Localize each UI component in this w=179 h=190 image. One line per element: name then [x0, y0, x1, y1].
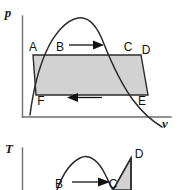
t-point-label-d: D	[135, 147, 144, 161]
t-point-label-c: C	[109, 177, 118, 190]
pv-top-flow-arrow	[69, 41, 104, 50]
t-saturation-dome	[57, 157, 113, 190]
t-flow-arrow	[72, 178, 110, 187]
pv-y-axis-label: p	[4, 5, 12, 20]
pv-point-label-a: A	[29, 40, 37, 54]
pv-diagram: p v A B C D E F	[0, 0, 179, 132]
t-point-label-b: B	[55, 177, 63, 190]
pv-cycle-region	[33, 55, 148, 95]
thermodynamic-cycle-figure: p v A B C D E F T	[0, 0, 179, 190]
pv-point-label-f: F	[37, 94, 44, 108]
pv-point-label-d: D	[142, 43, 151, 57]
t-y-axis-label: T	[5, 141, 14, 156]
pv-x-axis-label: v	[162, 116, 168, 131]
t-diagram: T B C D	[0, 132, 179, 190]
pv-point-label-c: C	[124, 40, 133, 54]
pv-point-label-b: B	[56, 40, 64, 54]
pv-point-label-e: E	[138, 94, 146, 108]
